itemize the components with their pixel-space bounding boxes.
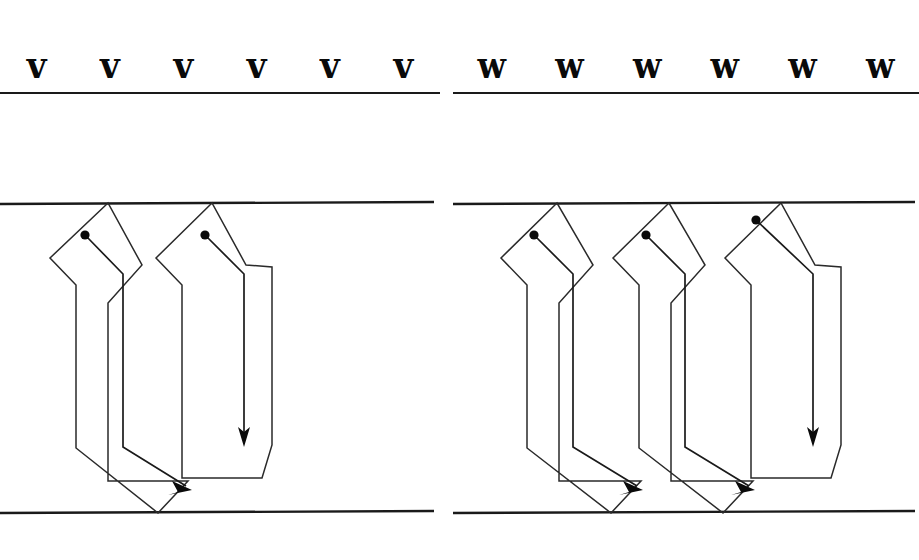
construction-diagram-w [453,195,919,525]
exemplar-glyph-w: w [788,48,816,83]
construction-diagram-v [0,195,440,525]
exemplar-glyph-w: w [866,48,894,83]
exemplar-glyph-w: w [633,48,661,83]
start-dot-1 [529,230,538,239]
exemplar-panel-v: v v v v v v [0,22,440,97]
start-dot-3 [751,215,760,224]
guide-x-height-line [453,202,915,204]
exemplar-glyph-v: v [247,47,267,83]
exemplar-glyph-v: v [173,47,193,83]
guide-baseline [0,511,434,513]
start-dot-1 [80,230,89,239]
exemplar-glyph-v: v [393,47,413,83]
exemplar-glyph-v: v [100,47,120,83]
exemplar-glyph-w: w [555,48,583,83]
exemplar-glyph-v: v [27,47,47,83]
exemplar-glyph-v: v [320,47,340,83]
stroke-outline-2 [613,203,753,513]
pen-path-3 [757,221,813,435]
stroke-outline-1 [501,203,641,513]
stroke-outline-1 [50,203,188,513]
exemplar-panel-w: w w w w w w [453,22,919,97]
exemplar-baseline-v [0,92,440,94]
exemplar-glyph-w: w [711,48,739,83]
exemplar-baseline-w [453,92,919,94]
start-dot-2 [641,230,650,239]
guide-baseline [453,511,915,513]
guide-x-height-line [0,202,434,204]
exemplar-glyph-w: w [478,48,506,83]
pen-path-2 [206,236,244,435]
exemplar-row-w: w w w w w w [453,22,919,82]
calligraphy-worksheet-page: v v v v v v w w w w w w [0,0,919,560]
stroke-outline-3 [725,203,841,478]
exemplar-row-v: v v v v v v [0,22,440,82]
start-dot-2 [200,230,209,239]
